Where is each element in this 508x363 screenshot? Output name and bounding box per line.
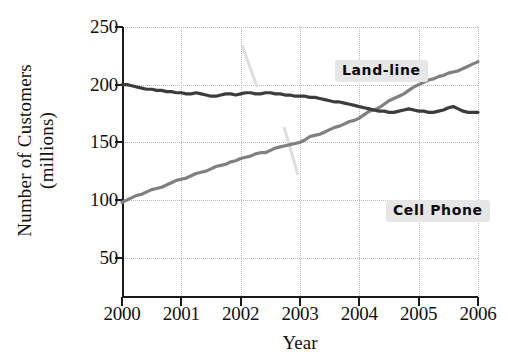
x-tick-label: 2004 bbox=[329, 303, 389, 325]
y-tick-label: 100 bbox=[72, 189, 118, 211]
series-line-land-line bbox=[122, 85, 478, 113]
landline-leader-line bbox=[242, 45, 257, 87]
y-tick-label: 150 bbox=[72, 131, 118, 153]
x-axis-tick-labels: 2000200120022003200420052006 bbox=[0, 303, 508, 329]
x-tick-label: 2001 bbox=[151, 303, 211, 325]
x-tick-label: 2002 bbox=[211, 303, 271, 325]
x-tick-label: 2005 bbox=[389, 303, 449, 325]
series-line-cell-phone bbox=[122, 62, 478, 203]
y-tick-label: 50 bbox=[72, 247, 118, 269]
y-tick-label: 250 bbox=[72, 16, 118, 38]
annotation-land-line: Land-line bbox=[335, 60, 428, 82]
y-tick-label: 200 bbox=[72, 74, 118, 96]
gridline-vertical bbox=[478, 27, 479, 298]
plot-area: Land-line Cell Phone bbox=[122, 27, 478, 298]
x-tick-label: 2000 bbox=[92, 303, 152, 325]
x-axis-title: Year bbox=[122, 332, 478, 354]
y-axis-title-line1: Number of Customers bbox=[14, 64, 36, 237]
cellphone-leader-line bbox=[284, 127, 298, 175]
annotation-cell-phone: Cell Phone bbox=[386, 200, 490, 222]
y-axis-title: Number of Customers (millions) bbox=[0, 0, 72, 300]
chart-figure: Number of Customers (millions) 250200150… bbox=[0, 0, 508, 363]
x-tick-label: 2003 bbox=[270, 303, 330, 325]
y-axis-title-line2: (millions) bbox=[36, 64, 58, 237]
x-tick-label: 2006 bbox=[448, 303, 508, 325]
